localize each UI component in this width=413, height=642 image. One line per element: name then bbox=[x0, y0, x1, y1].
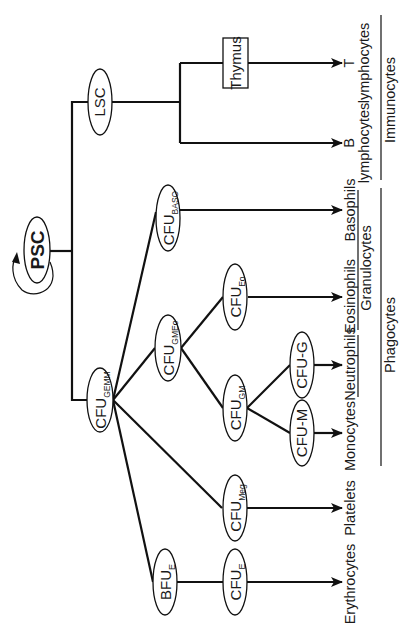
cfu-e-sub: E bbox=[237, 564, 247, 570]
node-cfu-gm[interactable]: CFUGM bbox=[223, 375, 247, 441]
cfu-eo-sub: Eo bbox=[237, 276, 247, 287]
cfu-meg-base: CFU bbox=[227, 501, 244, 532]
lsc-label: LSC bbox=[91, 87, 108, 116]
b-label: B bbox=[341, 138, 357, 148]
cfu-gemm-base: CFU bbox=[92, 398, 109, 429]
node-cfu-meg[interactable]: CFUMeg bbox=[223, 475, 247, 541]
node-cfu-gmeo[interactable]: CFUGMEo bbox=[155, 315, 181, 381]
cfu-m-label: CFU-M bbox=[293, 409, 310, 457]
thymus-label: Thymus bbox=[227, 36, 244, 89]
neutrophils-label: Neutrophils bbox=[342, 327, 358, 400]
immunocytes-label: Immunocytes bbox=[382, 57, 398, 143]
cfu-baso-sub: BASO bbox=[170, 190, 180, 214]
cfu-gm-base: CFU bbox=[227, 399, 244, 430]
psc-label: PSC bbox=[27, 230, 48, 269]
connectors bbox=[50, 63, 342, 582]
cfu-eo-base: CFU bbox=[227, 287, 244, 318]
node-cfu-gemm[interactable]: CFUGEMM bbox=[87, 368, 113, 432]
cfu-g-label: CFU-G bbox=[293, 341, 310, 389]
monocytes-label: Monocytes bbox=[342, 401, 358, 471]
cfu-baso-base: CFU bbox=[160, 214, 177, 245]
t-lymphocytes-label: lymphocytes bbox=[356, 23, 372, 104]
cfu-gmeo-base: CFU bbox=[160, 345, 177, 376]
platelets-label: Platelets bbox=[342, 480, 358, 536]
cfu-meg-sub: Meg bbox=[237, 484, 247, 501]
node-cfu-e[interactable]: CFUE bbox=[223, 549, 247, 615]
node-lsc[interactable]: LSC bbox=[88, 69, 112, 135]
cfu-gm-sub: GM bbox=[237, 386, 247, 400]
node-psc[interactable]: PSC bbox=[24, 217, 50, 283]
phagocytes-label: Phagocytes bbox=[382, 297, 398, 373]
node-thymus[interactable]: Thymus bbox=[223, 36, 248, 89]
self-renewal-arrowhead-icon bbox=[12, 252, 20, 264]
node-cfu-baso[interactable]: CFUBASO bbox=[156, 185, 180, 251]
granulocytes-label: Granulocytes bbox=[358, 225, 374, 310]
basophils-label: Basophils bbox=[342, 179, 358, 242]
node-bfu-e[interactable]: BFUE bbox=[153, 549, 177, 615]
output-labels: T lymphocytes B lymphocytes Basophils Eo… bbox=[341, 23, 372, 625]
hematopoiesis-diagram: PSC LSC Thymus CFUGEMM CFUBASO CFUGMEo C… bbox=[0, 0, 413, 642]
t-label: T bbox=[341, 58, 357, 67]
node-cfu-eo[interactable]: CFUEo bbox=[223, 264, 247, 330]
cfu-gemm-sub: GEMM bbox=[102, 371, 112, 397]
cfu-gmeo-sub: GMEo bbox=[170, 320, 180, 344]
eosinophils-label: Eosinophils bbox=[342, 259, 358, 333]
bfu-e-sub: E bbox=[167, 564, 177, 570]
cfu-e-base: CFU bbox=[227, 570, 244, 601]
erythrocytes-label: Erythrocytes bbox=[342, 544, 358, 625]
node-cfu-m[interactable]: CFU-M bbox=[290, 400, 314, 466]
b-lymphocytes-label: lymphocytes bbox=[356, 103, 372, 184]
bfu-e-base: BFU bbox=[157, 570, 174, 600]
node-cfu-g[interactable]: CFU-G bbox=[290, 332, 314, 398]
